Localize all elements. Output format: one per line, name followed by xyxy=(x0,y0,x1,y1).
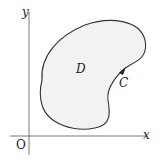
region-d-curve-c xyxy=(40,20,146,129)
curve-label: C xyxy=(119,77,128,89)
diagram-canvas: y x O D C xyxy=(0,0,165,163)
origin-label: O xyxy=(16,139,26,151)
x-axis-label: x xyxy=(143,129,150,141)
y-axis-label: y xyxy=(22,6,29,18)
region-label: D xyxy=(76,63,86,75)
